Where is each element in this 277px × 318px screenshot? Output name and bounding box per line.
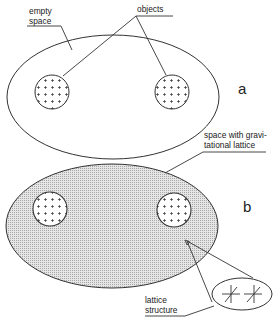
diagram-canvas [0,0,277,318]
object-circle-b-left [33,192,67,226]
empty-space-label-line2: space [29,16,52,26]
lattice-structure-label-line2: structure [145,305,178,315]
object-circle-a-right [155,75,189,109]
objects-label: objects [137,4,163,14]
lattice-structure-label: lattice structure [145,295,178,315]
objects-leader-left [63,16,136,76]
object-circle-a-left [35,75,69,109]
lattice-detail-ellipse [212,278,272,310]
panel-b [6,152,272,316]
panel-b-label: b [243,199,251,214]
empty-space-label: empty space [29,6,52,26]
objects-leader-right [136,16,166,75]
lattice-space-leader-line [165,152,266,173]
panel-a-label: a [238,81,246,96]
object-circle-b-right [157,193,191,227]
panel-a [7,16,219,159]
lattice-space-label: space with gravi- tational lattice [204,130,267,150]
empty-space-leader-line [27,26,72,50]
lattice-space-ellipse [6,164,218,288]
lattice-space-label-line2: tational lattice [204,140,267,150]
